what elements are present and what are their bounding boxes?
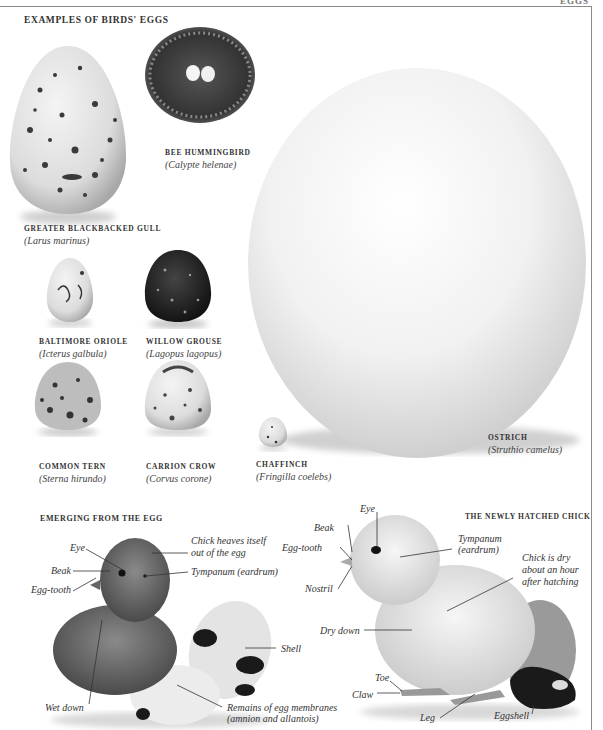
common-name: GREATER BLACKBACKED GULL (24, 223, 161, 235)
top-rule (0, 6, 591, 7)
caption-willow-grouse: WILLOW GROUSE (Lagopus lagopus) (146, 336, 222, 360)
label-wet-down: Wet down (45, 702, 84, 713)
section-title-emerging: EMERGING FROM THE EGG (40, 514, 163, 523)
label-dry-down: Dry down (320, 625, 360, 636)
gull-egg (10, 46, 126, 224)
label-remains-line2: (amnion and allantois) (227, 713, 319, 724)
scientific-name: (Struthio camelus) (488, 444, 562, 456)
scientific-name: (Larus marinus) (24, 235, 161, 247)
common-name: CARRION CROW (146, 461, 216, 473)
common-name: BALTIMORE ORIOLE (39, 336, 128, 348)
running-head: EGGS (560, 0, 589, 6)
common-name: WILLOW GROUSE (146, 336, 222, 348)
label-eggshell: Eggshell (494, 710, 529, 721)
label-chick-dry-line1: Chick is dry (522, 552, 570, 563)
label-toe: Toe (375, 672, 389, 683)
scientific-name: (Calypte helenae) (165, 159, 251, 171)
label-chick-dry-line3: after hatching (522, 576, 578, 587)
label-eye: Eye (70, 542, 85, 553)
caption-bee-hummingbird: BEE HUMMINGBIRD (Calypte helenae) (165, 147, 251, 171)
common-name: BEE HUMMINGBIRD (165, 147, 251, 159)
egg-illustrations (0, 0, 603, 730)
label-tympanum: Tympanum (eardrum) (191, 566, 278, 577)
section-title-eggs: EXAMPLES OF BIRDS' EGGS (24, 15, 169, 25)
common-name: COMMON TERN (39, 461, 106, 473)
scientific-name: (Icterus galbula) (39, 348, 128, 360)
label-beak: Beak (314, 522, 334, 533)
scientific-name: (Fringilla coelebs) (256, 471, 331, 483)
label-chick-heaves-line1: Chick heaves itself (191, 535, 266, 546)
scientific-name: (Lagopus lagopus) (146, 348, 222, 360)
label-beak: Beak (51, 565, 71, 576)
label-leg: Leg (420, 712, 435, 723)
caption-chaffinch: CHAFFINCH (Fringilla coelebs) (256, 459, 331, 483)
carrion-crow-egg (145, 360, 211, 436)
label-chick-dry-line2: about an hour (522, 564, 579, 575)
label-chick-heaves-line2: out of the egg (191, 547, 246, 558)
label-tympanum-line2: (eardrum) (458, 544, 499, 555)
caption-carrion-crow: CARRION CROW (Corvus corone) (146, 461, 216, 485)
hummingbird-nest (145, 27, 255, 123)
scientific-name: (Corvus corone) (146, 473, 216, 485)
caption-baltimore-oriole: BALTIMORE ORIOLE (Icterus galbula) (39, 336, 128, 360)
caption-greater-blackbacked-gull: GREATER BLACKBACKED GULL (Larus marinus) (24, 223, 161, 247)
label-nostril: Nostril (305, 583, 333, 594)
section-title-hatched: THE NEWLY HATCHED CHICK (465, 512, 590, 521)
common-tern-egg (35, 362, 101, 436)
label-claw: Claw (352, 689, 373, 700)
common-name: OSTRICH (488, 432, 562, 444)
chaffinch-egg (259, 417, 287, 451)
baltimore-oriole-egg (47, 258, 93, 327)
willow-grouse-egg (145, 250, 211, 328)
ostrich-egg (248, 68, 586, 458)
label-egg-tooth: Egg-tooth (31, 584, 71, 595)
scientific-name: (Sterna hirundo) (39, 473, 106, 485)
label-egg-tooth: Egg-tooth (282, 542, 322, 553)
common-name: CHAFFINCH (256, 459, 331, 471)
caption-common-tern: COMMON TERN (Sterna hirundo) (39, 461, 106, 485)
label-shell: Shell (281, 643, 301, 654)
caption-ostrich: OSTRICH (Struthio camelus) (488, 432, 562, 456)
label-eye: Eye (360, 503, 375, 514)
right-rule (591, 6, 592, 730)
label-tympanum-line1: Tympanum (458, 533, 502, 544)
label-remains-line1: Remains of egg membranes (227, 702, 337, 713)
